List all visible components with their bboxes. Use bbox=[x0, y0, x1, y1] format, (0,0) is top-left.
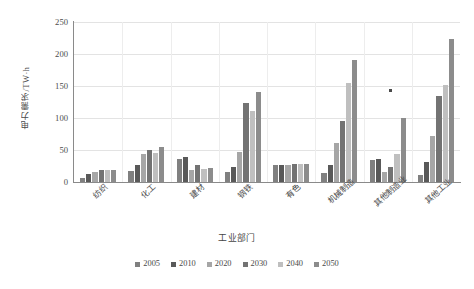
legend-label: 2030 bbox=[251, 260, 268, 268]
bar bbox=[195, 165, 200, 182]
x-tick-label: 钢铁 bbox=[237, 183, 255, 200]
bar bbox=[430, 136, 435, 182]
bar-group bbox=[219, 22, 267, 182]
bar bbox=[177, 159, 182, 182]
bar bbox=[256, 92, 261, 182]
legend-item[interactable]: 2040 bbox=[278, 260, 303, 268]
bar-group bbox=[122, 22, 170, 182]
scan-artifact-speck bbox=[389, 89, 392, 92]
legend-item[interactable]: 2020 bbox=[207, 260, 232, 268]
x-tick-cell: 其他工业 bbox=[412, 184, 460, 228]
bar bbox=[99, 170, 104, 182]
legend-label: 2010 bbox=[179, 260, 196, 268]
bar-group bbox=[171, 22, 219, 182]
x-tick-cell: 有色 bbox=[267, 184, 315, 228]
bar bbox=[352, 60, 357, 182]
bar bbox=[340, 121, 345, 182]
x-tick-cell: 钢铁 bbox=[219, 184, 267, 228]
legend-swatch-icon bbox=[278, 262, 283, 267]
x-tick-label: 化工 bbox=[140, 183, 158, 200]
legend-label: 2020 bbox=[215, 260, 232, 268]
x-tick-label: 纺织 bbox=[92, 183, 110, 200]
legend-label: 2005 bbox=[143, 260, 160, 268]
bar bbox=[321, 173, 326, 182]
legend-swatch-icon bbox=[314, 262, 319, 267]
legend-item[interactable]: 2005 bbox=[135, 260, 160, 268]
bar bbox=[370, 160, 375, 182]
bar bbox=[147, 150, 152, 182]
y-tick-label: 200 bbox=[34, 50, 68, 59]
bar bbox=[92, 172, 97, 182]
chart-figure: 电力需求/TW·h 050100150200250 纺织化工建材钢铁有色机械制造… bbox=[0, 0, 474, 289]
y-tick-label: 150 bbox=[34, 82, 68, 91]
x-tick-cell: 其他制造业 bbox=[364, 184, 412, 228]
x-tick-cell: 化工 bbox=[122, 184, 170, 228]
bar bbox=[346, 83, 351, 182]
x-tick-cell: 纺织 bbox=[74, 184, 122, 228]
bar bbox=[237, 152, 242, 182]
bar bbox=[449, 39, 454, 182]
y-tick-label: 250 bbox=[34, 18, 68, 27]
bar bbox=[111, 170, 116, 182]
bar-group bbox=[74, 22, 122, 182]
bar bbox=[80, 178, 85, 182]
bar bbox=[231, 167, 236, 182]
bar bbox=[105, 170, 110, 182]
bar bbox=[436, 96, 441, 182]
legend-swatch-icon bbox=[171, 262, 176, 267]
bar bbox=[424, 162, 429, 182]
bar bbox=[443, 85, 448, 182]
bar bbox=[279, 165, 284, 182]
bar bbox=[141, 154, 146, 182]
bar-group bbox=[315, 22, 363, 182]
bar bbox=[328, 165, 333, 182]
bar bbox=[388, 167, 393, 182]
legend-label: 2040 bbox=[286, 260, 303, 268]
bar bbox=[285, 165, 290, 182]
legend-swatch-icon bbox=[135, 262, 140, 267]
x-tick-label: 有色 bbox=[285, 183, 303, 200]
chart-legend: 200520102020203020402050 bbox=[0, 260, 474, 268]
bar bbox=[243, 103, 248, 182]
bar bbox=[273, 165, 278, 182]
bar bbox=[376, 159, 381, 182]
bar bbox=[201, 169, 206, 182]
bar-groups bbox=[74, 22, 460, 182]
bar bbox=[86, 174, 91, 182]
y-tick-label: 0 bbox=[34, 178, 68, 187]
bar bbox=[183, 157, 188, 182]
y-tick-label: 100 bbox=[34, 114, 68, 123]
x-axis-ticks: 纺织化工建材钢铁有色机械制造其他制造业其他工业 bbox=[74, 184, 460, 228]
bar bbox=[135, 165, 140, 182]
bar bbox=[401, 118, 406, 182]
x-tick-label: 建材 bbox=[188, 183, 206, 200]
bar bbox=[128, 171, 133, 182]
bar bbox=[298, 164, 303, 182]
bar bbox=[225, 172, 230, 182]
bar bbox=[418, 175, 423, 182]
bar bbox=[250, 111, 255, 182]
bar bbox=[153, 153, 158, 182]
bar bbox=[382, 172, 387, 182]
bar bbox=[304, 164, 309, 182]
legend-label: 2050 bbox=[322, 260, 339, 268]
legend-swatch-icon bbox=[243, 262, 248, 267]
bar bbox=[334, 143, 339, 182]
bar-group bbox=[364, 22, 412, 182]
legend-item[interactable]: 2050 bbox=[314, 260, 339, 268]
legend-swatch-icon bbox=[207, 262, 212, 267]
x-axis-title: 工业部门 bbox=[0, 231, 474, 244]
bar-group bbox=[412, 22, 460, 182]
x-tick-cell: 机械制造 bbox=[315, 184, 363, 228]
y-tick-label: 50 bbox=[34, 146, 68, 155]
x-tick-cell: 建材 bbox=[171, 184, 219, 228]
bar bbox=[208, 168, 213, 182]
bar bbox=[159, 147, 164, 182]
legend-item[interactable]: 2010 bbox=[171, 260, 196, 268]
bar bbox=[292, 164, 297, 182]
bar bbox=[189, 170, 194, 182]
bar-group bbox=[267, 22, 315, 182]
legend-item[interactable]: 2030 bbox=[243, 260, 268, 268]
y-axis-title: 电力需求/TW·h bbox=[18, 38, 34, 158]
